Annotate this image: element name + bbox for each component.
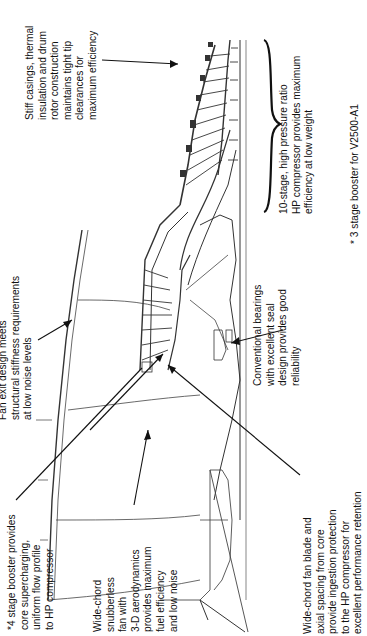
callout-stiff-casings: Stiff casings, thermal insulation and dr…	[24, 26, 100, 120]
callout-line: provide ingestion protection	[327, 491, 340, 634]
callout-bearings: Conventional bearings with excellent sea…	[252, 285, 302, 386]
callout-line: maximum efficiency	[87, 26, 100, 120]
callout-line: *4 stage booster provides	[6, 514, 19, 630]
callout-line: with excellent seal	[265, 285, 278, 386]
callout-line: efficiency at low weight	[303, 56, 316, 214]
callout-fan-exit: Fan exit design meets structural stiffne…	[0, 276, 35, 420]
engine-diagram: *4 stage booster provides core superchar…	[0, 0, 367, 636]
callout-line: Conventional bearings	[252, 285, 265, 386]
callout-booster: *4 stage booster provides core superchar…	[6, 514, 56, 630]
callout-line: and low noise	[168, 547, 181, 633]
callout-line: clearances for	[74, 26, 87, 120]
callout-line: Wide-chord fan blade and	[302, 491, 315, 634]
callout-line: maintains tight tip	[62, 26, 75, 120]
callout-fan-blade-spacing: Wide-chord fan blade and axial spacing f…	[302, 491, 365, 634]
callout-line: design provides good	[277, 285, 290, 386]
callout-line: Stiff casings, thermal	[24, 26, 37, 120]
callout-line: uniform flow profile	[31, 514, 44, 630]
callout-line: fuel efficiency	[155, 547, 168, 633]
callout-line: core supercharging,	[19, 514, 32, 630]
callout-line: Wide-chord	[92, 547, 105, 633]
callout-line: HP compressor provides maximum	[291, 56, 304, 214]
callout-line: Fan exit design meets	[0, 276, 10, 420]
callout-line: excellent performance retention	[352, 491, 365, 634]
callout-wide-chord-fan: Wide-chord snubberless fan with 3-D aero…	[92, 547, 180, 633]
footnote-text: * 3 stage booster for V2500-A1	[349, 104, 362, 244]
callout-line: fan with	[117, 547, 130, 633]
callout-line: provides maximum	[142, 547, 155, 633]
callout-line: at low noise levels	[22, 276, 35, 420]
callout-line: axial spacing from core	[315, 491, 328, 634]
callout-line: to the HP compressor for	[340, 491, 353, 634]
callout-line: snubberless	[105, 547, 118, 633]
callout-line: to HP compressor	[44, 514, 57, 630]
callout-line: insulation and drum	[37, 26, 50, 120]
callout-line: reliability	[290, 285, 303, 386]
callout-line: 10-stage, high pressure ratio	[278, 56, 291, 214]
callout-line: rotor construction	[49, 26, 62, 120]
footnote: * 3 stage booster for V2500-A1	[349, 104, 362, 244]
callout-line: structural stiffness requirements	[10, 276, 23, 420]
callout-line: 3-D aerodynamics	[130, 547, 143, 633]
callout-hp-compressor: 10-stage, high pressure ratio HP compres…	[278, 56, 316, 214]
